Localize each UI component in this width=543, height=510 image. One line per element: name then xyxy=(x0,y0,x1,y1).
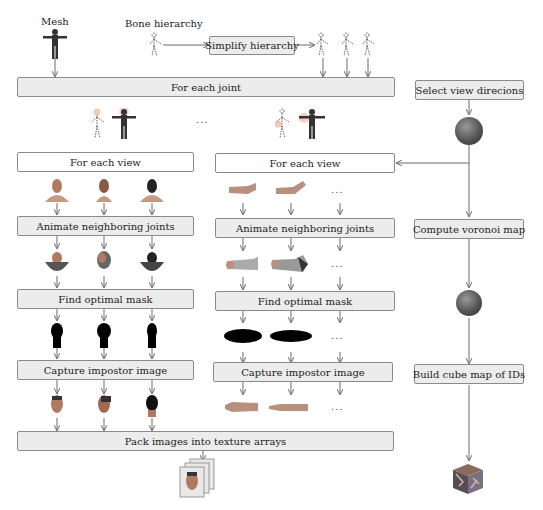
ellipsis: ... xyxy=(196,114,209,125)
impostor-head-side-icon xyxy=(96,394,112,418)
arm-render-bent-icon xyxy=(275,180,307,196)
ellipsis: ... xyxy=(331,330,344,341)
arm-render-icon xyxy=(228,182,258,196)
build-cube-map-box: Build cube map of IDs xyxy=(414,364,524,384)
mesh-figure-icon xyxy=(42,28,68,60)
pack-images-box: Pack images into texture arrays xyxy=(17,431,394,451)
animated-head-back-icon xyxy=(138,250,166,276)
mask-silhouette-icon xyxy=(47,322,67,348)
ellipsis: ... xyxy=(331,258,344,269)
head-render-front-icon xyxy=(43,178,71,204)
compute-voronoi-map-box: Compute voronoi map xyxy=(414,219,524,239)
arm-impostor-icon xyxy=(268,401,310,413)
mask-silhouette-icon xyxy=(142,322,162,348)
texture-array-stack-icon xyxy=(178,457,218,499)
joint-skeleton-icon xyxy=(275,108,291,140)
voronoi-sphere-icon xyxy=(456,290,482,316)
left-animate-joints-box: Animate neighboring joints xyxy=(17,216,194,236)
animated-arm-icon xyxy=(270,254,310,274)
bone-hierarchy-label: Bone hierarchy xyxy=(125,18,203,29)
joint-mesh-icon xyxy=(296,108,328,140)
impostor-head-front-icon xyxy=(49,394,65,418)
animated-head-side-icon xyxy=(92,250,116,276)
simplified-skeleton-icon xyxy=(315,32,331,58)
joint-mesh-icon xyxy=(110,108,138,140)
arm-impostor-icon xyxy=(224,400,260,414)
left-for-each-view-box: For each view xyxy=(17,152,194,172)
ellipsis: ... xyxy=(331,401,344,412)
simplify-hierarchy-box: Simplify hierarchy xyxy=(209,36,295,55)
head-render-side-icon xyxy=(92,178,116,204)
cube-map-icon xyxy=(451,462,485,496)
for-each-joint-box: For each joint xyxy=(17,77,395,97)
view-directions-sphere-icon xyxy=(455,117,483,145)
impostor-head-back-icon xyxy=(144,394,160,418)
mesh-label: Mesh xyxy=(41,16,69,27)
right-find-mask-box: Find optimal mask xyxy=(215,291,395,311)
right-animate-joints-box: Animate neighboring joints xyxy=(215,218,395,238)
animated-arm-icon xyxy=(225,255,261,273)
skeleton-icon xyxy=(148,32,164,58)
mask-silhouette-icon xyxy=(94,322,114,348)
head-render-back-icon xyxy=(138,178,166,204)
ellipsis: ... xyxy=(331,184,344,195)
simplified-skeleton-icon xyxy=(340,32,356,58)
simplified-skeleton-icon xyxy=(361,32,377,58)
select-view-directions-box: Select view direcions xyxy=(415,80,524,100)
left-capture-impostor-box: Capture impostor image xyxy=(17,360,194,380)
arm-mask-silhouette-icon xyxy=(223,327,263,345)
right-capture-impostor-box: Capture impostor image xyxy=(213,362,393,382)
left-find-mask-box: Find optimal mask xyxy=(17,289,194,309)
arm-mask-silhouette-icon xyxy=(269,328,313,344)
joint-skeleton-icon xyxy=(90,108,106,140)
animated-head-front-icon xyxy=(43,250,71,276)
right-for-each-view-box: For each view xyxy=(215,153,395,173)
